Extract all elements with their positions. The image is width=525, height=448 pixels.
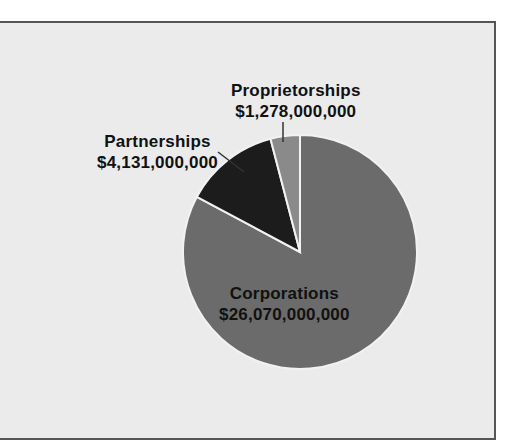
partnerships-name: Partnerships <box>97 131 218 152</box>
corporations-value: $26,070,000,000 <box>219 304 350 325</box>
partnerships-label: Partnerships $4,131,000,000 <box>97 131 218 173</box>
proprietorships-value: $1,278,000,000 <box>231 101 361 122</box>
partnerships-value: $4,131,000,000 <box>97 152 218 173</box>
corporations-label: Corporations $26,070,000,000 <box>219 283 350 325</box>
proprietorships-label: Proprietorships $1,278,000,000 <box>231 80 361 122</box>
pie-slices <box>183 135 417 369</box>
pie-chart <box>0 0 525 448</box>
corporations-name: Corporations <box>219 283 350 304</box>
proprietorships-name: Proprietorships <box>231 80 361 101</box>
